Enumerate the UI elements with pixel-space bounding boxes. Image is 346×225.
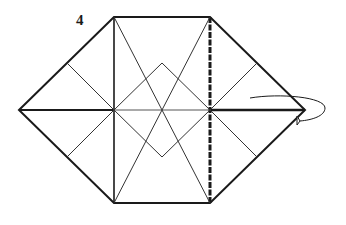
origami-diagram: 4	[0, 0, 346, 225]
step-number-label: 4	[76, 12, 84, 29]
